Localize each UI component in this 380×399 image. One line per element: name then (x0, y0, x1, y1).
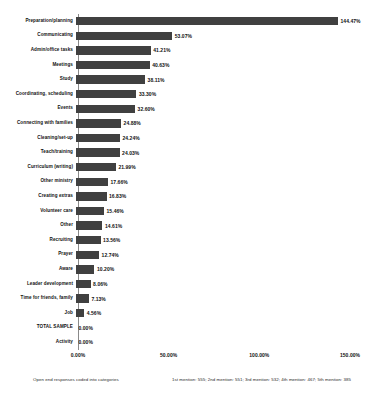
bar-zone: 32.60% (76, 102, 380, 117)
bar-row: Connecting with families24.88% (0, 116, 380, 131)
bar-zone: 21.99% (76, 160, 380, 175)
bar-value-label: 40.63% (150, 62, 170, 68)
footnote-mention-counts: 1st mention: 555; 2nd mention: 551; 3rd … (172, 377, 351, 382)
bar-row: Study38.11% (0, 72, 380, 87)
bar-zone: 24.03% (76, 145, 380, 160)
bar-zone: 12.74% (76, 248, 380, 263)
bar-value-label: 24.24% (120, 135, 140, 141)
bar-zone: 15.46% (76, 204, 380, 219)
bar-zone: 14.61% (76, 218, 380, 233)
bar (76, 163, 116, 171)
bar-row: Time for friends, family7.13% (0, 291, 380, 306)
bar-row: Leader development8.06% (0, 277, 380, 292)
bar-row: Events32.60% (0, 102, 380, 117)
bar-value-label: 0.00% (76, 339, 93, 345)
bar (76, 17, 338, 25)
bar (76, 192, 107, 200)
category-label: Aware (0, 267, 76, 272)
bar-value-label: 41.21% (151, 47, 171, 53)
bar (76, 75, 145, 83)
category-label: Meetings (0, 63, 76, 68)
category-label: Activity (0, 340, 76, 345)
bar-value-label: 15.46% (104, 208, 124, 214)
bar-value-label: 144.47% (338, 18, 361, 24)
category-label: Admin/office tasks (0, 48, 76, 53)
category-label: Time for friends, family (0, 296, 76, 301)
bar-zone: 33.30% (76, 87, 380, 102)
bar-row: Cleaning/set-up24.24% (0, 131, 380, 146)
bar-zone: 4.56% (76, 306, 380, 321)
bar (76, 119, 121, 127)
bar-rows: Preparation/planning144.47%Communicating… (0, 14, 380, 350)
bar-value-label: 0.00% (76, 325, 93, 331)
bar-value-label: 24.88% (121, 120, 141, 126)
bar (76, 207, 104, 215)
bar (76, 236, 101, 244)
bar-value-label: 38.11% (145, 77, 164, 83)
bar-row: Admin/office tasks41.21% (0, 43, 380, 58)
bar-row: Prayer12.74% (0, 248, 380, 263)
category-label: Prayer (0, 252, 76, 257)
bar-value-label: 24.03% (120, 150, 140, 156)
bar-zone: 0.00% (76, 335, 380, 350)
bar-zone: 10.20% (76, 262, 380, 277)
bar-row: Coordinating, scheduling33.30% (0, 87, 380, 102)
bar-value-label: 21.99% (116, 164, 136, 170)
plot-area: Preparation/planning144.47%Communicating… (0, 14, 380, 350)
bar-zone: 8.06% (76, 277, 380, 292)
bar-zone: 13.56% (76, 233, 380, 248)
bar (76, 221, 102, 229)
category-label: Other ministry (0, 179, 76, 184)
bar-row: Volunteer care15.46% (0, 204, 380, 219)
bar (76, 61, 150, 69)
bar-zone: 144.47% (76, 14, 380, 29)
bar-zone: 41.21% (76, 43, 380, 58)
bar-row: TOTAL SAMPLE0.00% (0, 320, 380, 335)
x-tick-label: 150.00% (340, 352, 360, 358)
bar (76, 294, 89, 302)
bar-zone: 40.63% (76, 58, 380, 73)
bar-row: Curriculum (writing)21.99% (0, 160, 380, 175)
x-tick-label: 0.00% (71, 352, 85, 358)
bar-zone: 0.00% (76, 320, 380, 335)
category-label: Curriculum (writing) (0, 165, 76, 170)
bar-value-label: 7.13% (89, 296, 106, 302)
bar-row: Teach/training24.03% (0, 145, 380, 160)
bar-value-label: 17.66% (108, 179, 128, 185)
bar-value-label: 14.61% (102, 223, 122, 229)
category-label: Connecting with families (0, 121, 76, 126)
footnote-group: Open end responses coded into categories… (0, 377, 380, 391)
bar (76, 280, 91, 288)
category-label: Study (0, 77, 76, 82)
bar (76, 32, 172, 40)
bar (76, 46, 151, 54)
bar (76, 309, 84, 317)
bar-row: Creating extras16.83% (0, 189, 380, 204)
bar-zone: 17.66% (76, 175, 380, 190)
bar-value-label: 4.56% (84, 310, 101, 316)
bar-value-label: 12.74% (99, 252, 119, 258)
bar-row: Recruiting13.56% (0, 233, 380, 248)
bar-value-label: 32.60% (135, 106, 155, 112)
bar (76, 265, 94, 273)
category-label: Job (0, 311, 76, 316)
bar-zone: 38.11% (76, 72, 380, 87)
category-label: Other (0, 223, 76, 228)
bar-zone: 24.24% (76, 131, 380, 146)
category-label: Volunteer care (0, 209, 76, 214)
x-tick-label: 50.00% (160, 352, 177, 358)
bar (76, 178, 108, 186)
category-label: Leader development (0, 282, 76, 287)
x-axis-tick-labels: 0.00%50.00%100.00%150.00% (0, 352, 380, 364)
category-label: Communicating (0, 33, 76, 38)
bar-value-label: 33.30% (136, 91, 156, 97)
bar-row: Job4.56% (0, 306, 380, 321)
bar-row: Preparation/planning144.47% (0, 14, 380, 29)
category-label: Teach/training (0, 150, 76, 155)
bar (76, 251, 99, 259)
bar-row: Activity0.00% (0, 335, 380, 350)
bar (76, 90, 136, 98)
category-label: TOTAL SAMPLE (0, 325, 76, 330)
category-label: Cleaning/set-up (0, 136, 76, 141)
bar (76, 134, 120, 142)
